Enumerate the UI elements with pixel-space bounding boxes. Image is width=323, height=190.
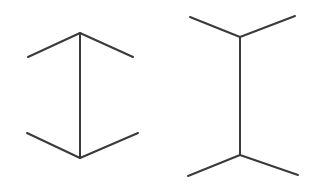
muller-lyer-figure-canvas bbox=[0, 0, 323, 190]
canvas-background bbox=[0, 0, 323, 190]
